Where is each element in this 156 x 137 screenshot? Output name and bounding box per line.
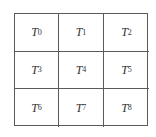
cell-label: T xyxy=(76,101,83,116)
cell-label: T xyxy=(31,25,38,40)
cell-label: T xyxy=(121,25,128,40)
cell-label: T xyxy=(76,63,83,78)
grid-cell-t0: T0 xyxy=(15,14,59,52)
grid-cell-t6: T6 xyxy=(15,89,59,127)
cell-label: T xyxy=(121,63,128,78)
cell-label: T xyxy=(121,101,128,116)
grid-cell-t3: T3 xyxy=(15,52,59,89)
grid-cell-t7: T7 xyxy=(59,89,104,127)
grid-cell-t8: T8 xyxy=(104,89,149,127)
cell-label: T xyxy=(76,25,83,40)
cell-label: T xyxy=(31,101,38,116)
grid-cell-t1: T1 xyxy=(59,14,104,52)
cell-label: T xyxy=(31,63,38,78)
tile-grid: T0 T1 T2 T3 T4 T5 T6 T7 T8 xyxy=(14,13,148,126)
grid-cell-t5: T5 xyxy=(104,52,149,89)
grid-cell-t4: T4 xyxy=(59,52,104,89)
grid-cell-t2: T2 xyxy=(104,14,149,52)
